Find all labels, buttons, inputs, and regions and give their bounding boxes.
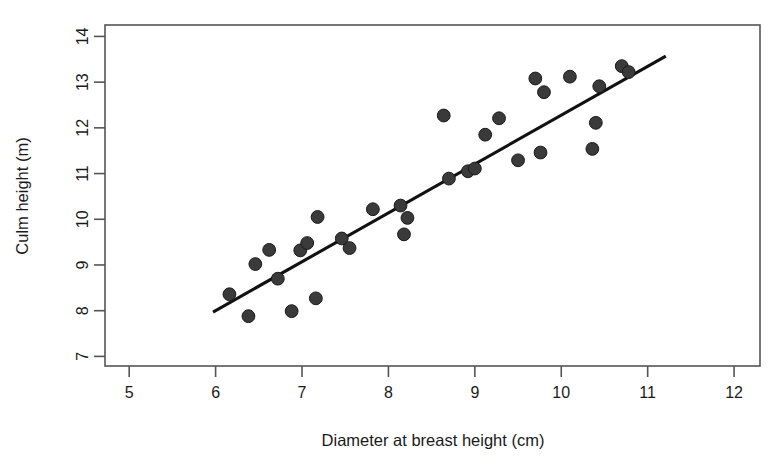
data-point — [398, 228, 411, 241]
y-axis-title: Culm height (m) — [13, 137, 31, 254]
x-tick-label-8: 8 — [384, 384, 393, 401]
data-point — [622, 66, 635, 79]
y-tick-label-12: 12 — [75, 119, 92, 137]
data-point — [242, 310, 255, 323]
x-axis-tick-labels: 56789101112 — [125, 384, 743, 401]
data-point — [394, 199, 407, 212]
x-tick-label-7: 7 — [298, 384, 307, 401]
data-point — [534, 146, 547, 159]
data-point — [563, 70, 576, 83]
y-tick-label-10: 10 — [75, 210, 92, 228]
data-point — [586, 142, 599, 155]
x-tick-label-10: 10 — [552, 384, 570, 401]
data-point — [593, 80, 606, 93]
x-tick-label-9: 9 — [470, 384, 479, 401]
data-point — [301, 237, 314, 250]
x-tick-label-5: 5 — [125, 384, 134, 401]
x-tick-label-12: 12 — [725, 384, 743, 401]
data-point — [443, 172, 456, 185]
data-point — [343, 242, 356, 255]
plot-frame — [105, 25, 760, 366]
x-tick-label-11: 11 — [639, 384, 656, 401]
y-axis-tick-labels: 7891011121314 — [75, 27, 92, 360]
data-point — [479, 128, 492, 141]
y-tick-label-14: 14 — [75, 27, 92, 45]
data-point — [468, 162, 481, 175]
y-tick-label-9: 9 — [75, 260, 92, 269]
data-point — [437, 109, 450, 122]
data-point — [401, 211, 414, 224]
y-tick-label-11: 11 — [75, 165, 92, 182]
data-point — [589, 116, 602, 129]
y-tick-label-8: 8 — [75, 306, 92, 315]
data-point — [512, 154, 525, 167]
x-axis-ticks — [129, 366, 734, 377]
y-tick-label-13: 13 — [75, 73, 92, 91]
y-tick-label-7: 7 — [75, 352, 92, 361]
data-point — [285, 305, 298, 318]
data-point — [263, 243, 276, 256]
data-point — [529, 72, 542, 85]
data-point — [311, 211, 324, 224]
plot-canvas: 56789101112 7891011121314 Diameter at br… — [0, 0, 779, 466]
data-point — [538, 86, 551, 99]
y-axis-ticks — [94, 36, 105, 356]
data-point — [366, 203, 379, 216]
plot-box — [105, 25, 760, 366]
scatter-plot-figure: 56789101112 7891011121314 Diameter at br… — [0, 0, 779, 466]
x-tick-label-6: 6 — [211, 384, 220, 401]
data-point — [249, 258, 262, 271]
data-point — [223, 288, 236, 301]
data-point — [493, 112, 506, 125]
x-axis-title: Diameter at breast height (cm) — [322, 431, 545, 449]
data-point — [309, 292, 322, 305]
data-point — [271, 272, 284, 285]
